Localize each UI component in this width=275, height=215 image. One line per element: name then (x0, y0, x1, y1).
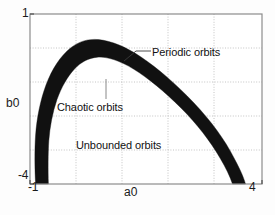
figure-canvas: 1 -4 -1 4 b0 a0 Periodic orbits Chaotic … (0, 0, 275, 215)
x-axis-max-label: 4 (249, 180, 255, 194)
x-axis-min-label: -1 (28, 180, 38, 194)
plot-svg (0, 0, 275, 215)
y-axis-max-label: 1 (22, 6, 28, 20)
annotation-chaotic-orbits: Chaotic orbits (57, 101, 123, 113)
y-axis-title: b0 (6, 96, 19, 110)
x-axis-title: a0 (124, 185, 137, 199)
annotation-unbounded-orbits: Unbounded orbits (76, 139, 161, 151)
y-axis-min-label: -4 (18, 168, 28, 182)
annotation-periodic-orbits: Periodic orbits (152, 46, 220, 58)
